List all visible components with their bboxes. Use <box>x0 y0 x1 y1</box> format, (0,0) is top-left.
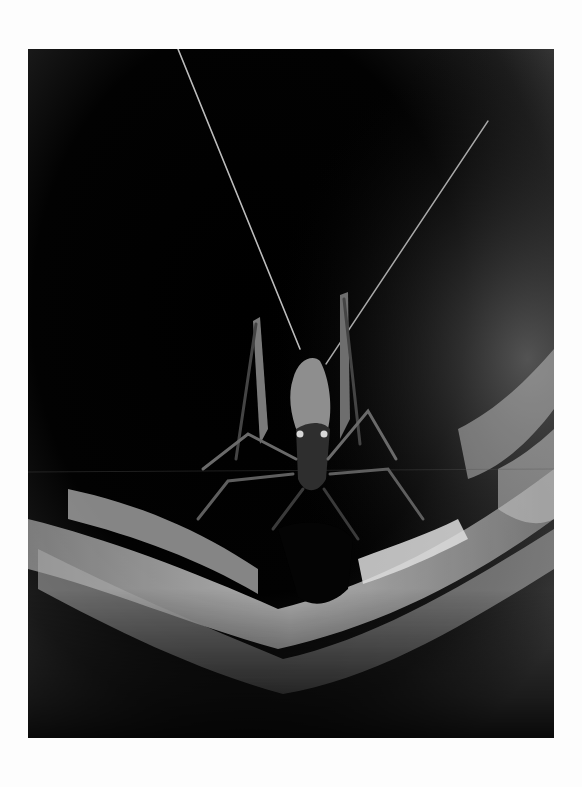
photo-rendering <box>28 49 554 738</box>
cricket-photograph: Grayscale photograph of a cave cricket w… <box>28 49 554 738</box>
